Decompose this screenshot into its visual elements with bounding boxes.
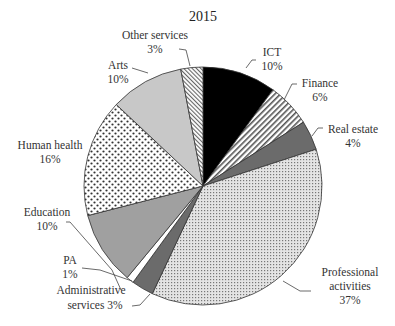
label-pa-pct: 1% (62, 268, 78, 280)
label-education: Education (24, 206, 71, 218)
label-finance: Finance (302, 77, 338, 89)
pie-chart: 2015 ICT 10% Finance 6% Real estate 4% P… (0, 0, 395, 326)
label-professional-line2: activities (329, 280, 371, 292)
label-ict: ICT (263, 46, 282, 58)
label-admin-line2: services 3% (67, 299, 123, 311)
label-professional-pct: 37% (339, 294, 361, 306)
label-other-services: Other services (122, 29, 189, 41)
label-admin-line1: Administrative (57, 284, 126, 296)
label-real-estate-pct: 4% (345, 137, 361, 149)
label-professional-line1: Professional (322, 266, 379, 278)
label-other-services-pct: 3% (147, 43, 163, 55)
label-human-health: Human health (18, 139, 83, 151)
label-arts-pct: 10% (107, 73, 129, 85)
label-arts: Arts (108, 59, 128, 71)
label-pa: PA (63, 254, 77, 266)
label-human-health-pct: 16% (39, 153, 61, 165)
chart-title: 2015 (189, 9, 217, 24)
label-ict-pct: 10% (261, 60, 283, 72)
label-real-estate: Real estate (328, 123, 378, 135)
label-finance-pct: 6% (312, 91, 328, 103)
label-education-pct: 10% (36, 220, 58, 232)
pie-slices (84, 67, 322, 305)
